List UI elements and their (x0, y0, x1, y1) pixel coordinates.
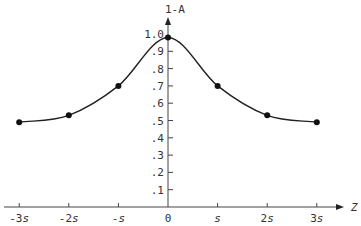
y-tick-label: .8 (151, 63, 164, 76)
data-point-marker (115, 83, 121, 89)
x-tick-label: -3s (9, 212, 29, 225)
y-tick-label: .7 (151, 80, 164, 93)
chart: -3s-2s-s0s2s3s .1.2.3.4.5.6.7.8.91.0 1-A… (0, 0, 361, 226)
data-point-marker (165, 34, 171, 40)
x-axis-title: Z (350, 201, 358, 214)
y-axis-title: 1-A (165, 3, 185, 16)
x-tick-label: 3s (310, 212, 323, 225)
x-axis: -3s-2s-s0s2s3s (4, 203, 344, 225)
x-tick-label: s (214, 212, 221, 225)
y-axis: .1.2.3.4.5.6.7.8.91.0 (144, 17, 173, 207)
x-axis-arrow-icon (336, 204, 344, 210)
data-point-marker (215, 83, 221, 89)
x-tick-label: 2s (261, 212, 274, 225)
y-tick-label: .6 (151, 97, 164, 110)
y-tick-label: .5 (151, 115, 164, 128)
y-axis-arrow-icon (165, 17, 171, 25)
data-point-marker (66, 112, 72, 118)
x-tick-label: -s (112, 212, 125, 225)
x-tick-label: 0 (165, 212, 172, 225)
y-tick-label: .9 (151, 45, 164, 58)
y-tick-label: .3 (151, 149, 164, 162)
data-point-marker (16, 119, 22, 125)
y-tick-label: .1 (151, 184, 164, 197)
data-point-marker (264, 112, 270, 118)
y-tick-label: .4 (151, 132, 165, 145)
data-point-marker (314, 119, 320, 125)
x-tick-label: -2s (59, 212, 79, 225)
y-tick-label: .2 (151, 166, 164, 179)
